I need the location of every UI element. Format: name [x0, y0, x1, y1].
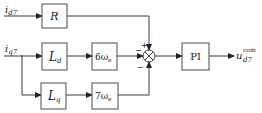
wire-7we-to-junction	[118, 62, 149, 95]
block-6we: 6ωe	[92, 43, 117, 70]
svg-text:com: com	[243, 46, 256, 53]
block-r: R	[42, 4, 67, 28]
block-diagram: id7 R iq7 Ld 6ωe Lq 7ωe +	[0, 0, 262, 113]
block-pi: PI	[182, 43, 209, 70]
svg-text:R: R	[49, 10, 58, 23]
svg-text:d7: d7	[243, 56, 252, 64]
svg-text:u: u	[236, 50, 242, 61]
sign-top: +	[141, 41, 148, 50]
branch-point	[21, 55, 23, 57]
svg-text:iq7: iq7	[5, 43, 18, 56]
svg-text:PI: PI	[190, 51, 201, 62]
output-label: u com d7	[236, 46, 256, 64]
sign-bottom: −	[137, 63, 144, 72]
block-lq: Lq	[41, 83, 66, 109]
input-id7-label: id7	[5, 4, 18, 17]
wire-branch-to-lq	[22, 56, 41, 95]
svg-text:id7: id7	[5, 4, 18, 17]
sign-left: −	[135, 46, 142, 55]
block-ld: Ld	[42, 43, 67, 70]
input-iq7-label: iq7	[5, 43, 18, 56]
block-7we: 7ωe	[92, 83, 118, 109]
summing-junction	[143, 50, 155, 62]
